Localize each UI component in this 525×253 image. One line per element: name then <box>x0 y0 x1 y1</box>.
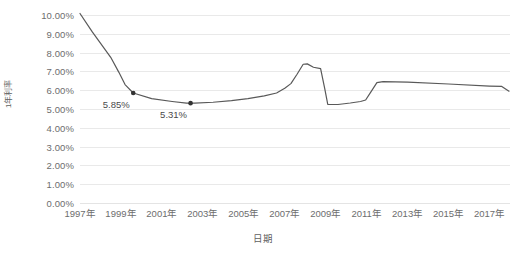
x-axis-tick-label: 2015年 <box>433 206 464 220</box>
x-axis-tick-label: 2009年 <box>310 206 341 220</box>
series-line <box>80 14 509 105</box>
data-point-marker <box>131 91 136 96</box>
x-axis: 1997年1999年2001年2003年2005年2007年2009年2011年… <box>80 206 510 226</box>
data-point-label: 5.85% <box>103 99 130 110</box>
y-axis-tick-label: 3.00% <box>47 141 74 152</box>
y-axis-tick-label: 5.00% <box>47 104 74 115</box>
gridline <box>80 203 510 204</box>
x-axis-tick-label: 2003年 <box>187 206 218 220</box>
y-axis-title: 1年利率 <box>2 80 13 108</box>
x-axis-tick-label: 1999年 <box>105 206 136 220</box>
y-axis-tick-label: 10.00% <box>41 10 74 21</box>
y-axis-tick-label: 9.00% <box>47 28 74 39</box>
x-axis-tick-label: 2007年 <box>269 206 300 220</box>
x-axis-tick-label: 2017年 <box>474 206 505 220</box>
x-axis-tick-label: 2013年 <box>392 206 423 220</box>
y-axis-tick-label: 4.00% <box>47 122 74 133</box>
plot-area <box>80 15 510 203</box>
y-axis-tick-label: 1.00% <box>47 179 74 190</box>
series-line-1year-rate <box>80 15 510 203</box>
x-axis-title: 日期 <box>0 231 525 245</box>
y-axis-tick-label: 8.00% <box>47 47 74 58</box>
y-axis-tick-label: 6.00% <box>47 85 74 96</box>
x-axis-tick-label: 1997年 <box>64 206 95 220</box>
line-chart: 10.00%9.00%8.00%7.00%6.00%5.00%4.00%3.00… <box>0 0 525 253</box>
x-axis-tick-label: 2005年 <box>228 206 259 220</box>
x-axis-tick-label: 2001年 <box>146 206 177 220</box>
data-point-label: 5.31% <box>160 109 187 120</box>
x-axis-tick-label: 2011年 <box>351 206 381 220</box>
y-axis-tick-label: 2.00% <box>47 160 74 171</box>
data-point-marker <box>188 101 193 106</box>
y-axis-tick-label: 7.00% <box>47 66 74 77</box>
